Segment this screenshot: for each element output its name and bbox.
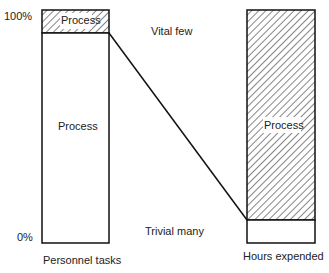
- left-bar-bottom-segment: [42, 33, 109, 243]
- left-top-segment-label: Process: [61, 14, 101, 26]
- vital-few-annotation: Vital few: [151, 25, 192, 37]
- right-top-segment-label: Process: [264, 119, 304, 131]
- right-bar-label: Hours expended: [243, 250, 324, 262]
- trivial-many-annotation: Trivial many: [145, 225, 204, 237]
- y-bottom-label: 0%: [17, 231, 33, 243]
- connector-line: [109, 33, 247, 220]
- right-bar-top-segment: [247, 10, 315, 220]
- y-top-label: 100%: [4, 10, 32, 22]
- left-bar-label: Personnel tasks: [43, 254, 121, 266]
- left-bottom-segment-label: Process: [58, 120, 98, 132]
- right-bar-bottom-segment: [247, 220, 315, 243]
